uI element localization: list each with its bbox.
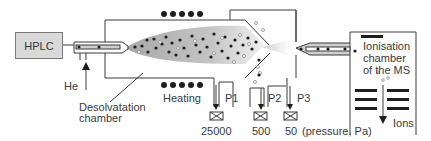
pressure-unit: (pressure, Pa)	[302, 125, 372, 137]
inlet-capillary	[74, 42, 128, 60]
ms-label-2: chamber	[363, 52, 406, 64]
p2-pressure: 500	[252, 125, 270, 137]
p2-label: P2	[268, 92, 281, 104]
pump-p2	[254, 88, 267, 120]
ms-label-1: Ionisation	[363, 40, 410, 52]
ms-label-3: of the MS	[363, 64, 410, 76]
desolvation-pointer	[110, 73, 143, 102]
pump-p3	[284, 86, 297, 120]
p1-label: P1	[225, 92, 238, 104]
he-inlet-arrow	[82, 62, 90, 90]
heating-elements-top	[161, 11, 203, 17]
heating-label: Heating	[163, 92, 201, 104]
ms-top-plate	[361, 35, 383, 38]
p1-pressure: 25000	[201, 125, 232, 137]
heating-elements-bottom	[161, 82, 203, 88]
ions-arrow	[379, 85, 387, 124]
desolvation-label-2: chamber	[79, 112, 122, 124]
p3-label: P3	[297, 92, 310, 104]
ions-label: Ions	[393, 117, 414, 129]
hplc-box: HPLC	[15, 32, 63, 59]
p3-pressure: 50	[285, 125, 297, 137]
skimmer-capillary	[296, 43, 350, 55]
he-label: He	[64, 80, 78, 92]
pump-p1	[210, 85, 223, 120]
ion-lens-plates	[355, 89, 409, 110]
